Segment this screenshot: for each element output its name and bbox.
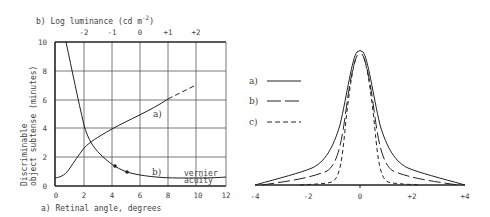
top-axis-ticks: -2 -1 0 +1 +2 [79,28,200,37]
figure-canvas: b) Log luminance (cd m-2) -2 -1 0 +1 +2 [0,0,490,217]
x-axis-ticks: 0 2 4 6 8 10 12 [54,191,231,200]
x-axis-ticks-right: -4 -2 0 +2 +4 [250,192,470,201]
svg-text:+2: +2 [407,192,416,201]
svg-text:6: 6 [42,96,47,105]
legend: a) b) c) [249,76,301,127]
svg-text:8: 8 [42,67,47,76]
svg-text:2: 2 [82,191,87,200]
svg-text:0: 0 [42,182,47,191]
y-axis-ticks: 0 2 4 6 8 10 [38,38,48,191]
svg-text:0: 0 [358,192,363,201]
y-axis-label: Discriminable object subtense (minutes) [20,66,38,186]
svg-text:-1: -1 [107,28,116,37]
curve-b [66,42,226,178]
curve-c [300,58,420,185]
svg-text:2: 2 [42,153,47,162]
svg-text:+4: +4 [460,192,470,201]
svg-text:10: 10 [193,191,203,200]
curve-a-dashed [168,85,196,99]
legend-label-b: b) [249,96,258,106]
svg-text:8: 8 [166,191,171,200]
svg-text:-2: -2 [303,192,312,201]
label-acuity: acuity [184,176,213,185]
svg-text:0: 0 [54,191,59,200]
svg-text:+2: +2 [191,28,200,37]
left-chart: b) Log luminance (cd m-2) -2 -1 0 +1 +2 [20,14,231,213]
svg-text:10: 10 [38,38,48,47]
svg-text:4: 4 [42,124,47,133]
svg-text:-2: -2 [79,28,88,37]
legend-label-c: c) [249,117,258,127]
marker-point [125,170,129,174]
curve-a [255,51,465,186]
label-a: a) [153,109,162,119]
svg-text:object subtense (minutes): object subtense (minutes) [29,66,38,186]
curve-b [262,54,458,185]
label-b: b) [152,167,161,177]
svg-text:0: 0 [138,28,143,37]
svg-text:6: 6 [138,191,143,200]
right-chart: a) b) c) -4 -2 0 +2 +4 [249,51,470,202]
x-axis-label: a) Retinal angle, degrees [41,204,162,213]
legend-label-a: a) [249,76,258,86]
svg-text:+1: +1 [163,28,172,37]
marker-point [113,164,117,168]
svg-text:4: 4 [110,191,115,200]
svg-text:12: 12 [221,191,230,200]
top-axis-title: b) Log luminance (cd m-2) [36,14,154,26]
svg-text:-4: -4 [250,192,260,201]
svg-text:Discriminable: Discriminable [20,123,29,186]
